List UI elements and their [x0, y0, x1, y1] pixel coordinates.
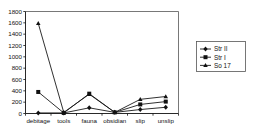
- plot-frame-border: [26, 12, 179, 114]
- y-axis-tick-labels: 180016001400120010008006004002000: [8, 8, 22, 117]
- y-tick-label: 200: [12, 98, 23, 105]
- square-marker: [204, 55, 208, 59]
- x-tick-label: obsidian: [103, 117, 127, 124]
- y-tick-label: 600: [12, 76, 23, 83]
- series-so-17: [36, 21, 168, 114]
- y-tick-label: 1600: [8, 19, 22, 26]
- square-marker: [164, 100, 168, 104]
- y-tick-label: 800: [12, 64, 23, 71]
- y-tick-label: 0: [19, 110, 23, 117]
- x-tick-label: slip: [136, 117, 146, 124]
- diamond-marker: [87, 105, 91, 110]
- x-tick-label: fauna: [82, 117, 98, 124]
- square-marker: [36, 90, 40, 94]
- diamond-marker: [164, 105, 168, 110]
- legend-label: So 17: [214, 62, 231, 69]
- series-layer: [36, 21, 168, 115]
- chart-legend: Str IIStr ISo 17: [197, 42, 246, 72]
- legend-label: Str II: [214, 45, 228, 52]
- x-tick-label: unslip: [158, 117, 175, 124]
- x-axis-tick-labels: debitagetoolsfaunaobsidianslipunslip: [26, 117, 174, 124]
- triangle-marker: [36, 21, 40, 25]
- y-tick-label: 400: [12, 87, 23, 94]
- diamond-marker: [138, 107, 142, 112]
- square-marker: [138, 102, 142, 106]
- y-tick-label: 1200: [8, 42, 22, 49]
- x-tick-label: debitage: [26, 117, 50, 124]
- legend-label: Str I: [214, 54, 226, 61]
- y-tick-label: 1400: [8, 30, 22, 37]
- y-tick-label: 1000: [8, 53, 22, 60]
- x-tick-label: tools: [57, 117, 70, 124]
- diamond-marker: [36, 110, 40, 115]
- chart-canvas: 180016001400120010008006004002000 debita…: [0, 0, 256, 136]
- series-str-i: [36, 90, 168, 115]
- series-polyline: [38, 23, 166, 112]
- triangle-marker: [164, 94, 168, 98]
- line-chart: 180016001400120010008006004002000 debita…: [0, 0, 256, 136]
- y-tick-label: 1800: [8, 8, 22, 15]
- plot-frame: [26, 12, 179, 114]
